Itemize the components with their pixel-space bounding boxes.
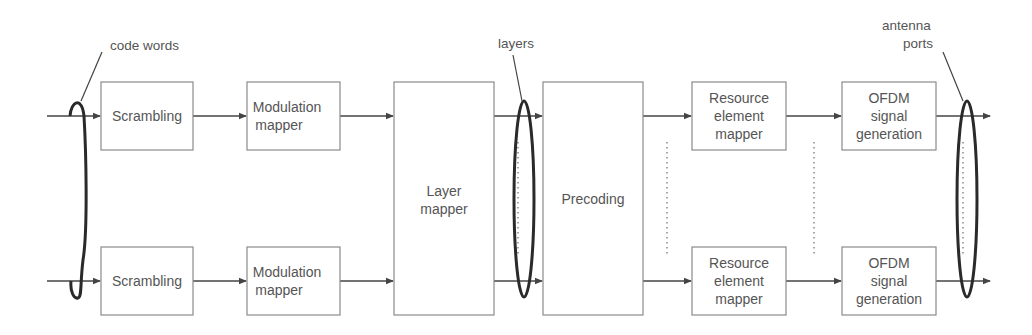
code-words-label: code words <box>110 38 179 53</box>
block-label: Modulation <box>253 99 322 115</box>
block-label: Modulation <box>253 264 322 280</box>
block-label: element <box>714 273 764 289</box>
block-label: generation <box>856 291 922 307</box>
block-label: Resource <box>709 255 769 271</box>
block-label: generation <box>856 126 922 142</box>
block-label: Layer <box>426 183 461 199</box>
block-precoding: Precoding <box>543 82 643 315</box>
block-label: OFDM <box>868 255 909 271</box>
block-label: signal <box>871 273 908 289</box>
block-ofdm-signal-generation-top: OFDM signal generation <box>842 82 936 150</box>
layers-grouping: layers <box>498 36 534 297</box>
block-label: Scrambling <box>112 108 182 124</box>
antenna-ports-label: antenna <box>882 18 931 33</box>
lte-downlink-physical-channel-diagram: Scrambling Scrambling Modulation mapper … <box>0 0 1032 335</box>
block-resource-element-mapper-bottom: Resource element mapper <box>692 247 786 315</box>
antenna-ports-label: ports <box>903 36 933 51</box>
block-label: Scrambling <box>112 273 182 289</box>
block-resource-element-mapper-top: Resource element mapper <box>692 82 786 150</box>
block-layer-mapper: Layer mapper <box>394 82 494 315</box>
layers-label: layers <box>498 36 534 51</box>
block-label: mapper <box>715 291 763 307</box>
block-modulation-mapper-top: Modulation mapper <box>247 82 340 150</box>
block-label: signal <box>871 108 908 124</box>
block-label: mapper <box>255 117 303 133</box>
block-label: OFDM <box>868 90 909 106</box>
block-label: Precoding <box>561 191 624 207</box>
block-label: mapper <box>715 126 763 142</box>
block-scrambling-top: Scrambling <box>101 82 193 150</box>
block-label: mapper <box>420 201 468 217</box>
block-label: mapper <box>255 282 303 298</box>
block-scrambling-bottom: Scrambling <box>101 247 193 315</box>
block-modulation-mapper-bottom: Modulation mapper <box>247 247 340 315</box>
block-label: Resource <box>709 90 769 106</box>
block-label: element <box>714 108 764 124</box>
block-ofdm-signal-generation-bottom: OFDM signal generation <box>842 247 936 315</box>
